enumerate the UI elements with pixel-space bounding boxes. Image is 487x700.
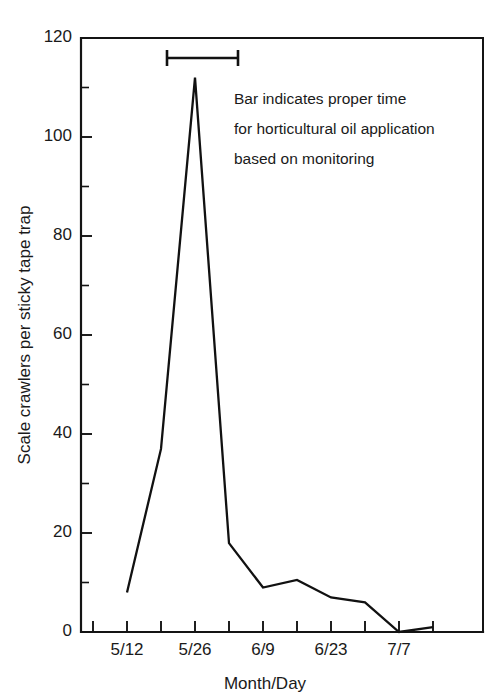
- x-axis-title: Month/Day: [224, 674, 307, 693]
- x-tick-label-5: 7/7: [387, 640, 411, 659]
- annotation-line-2: for horticultural oil application: [234, 120, 435, 137]
- y-tick-label-0: 0: [63, 621, 72, 640]
- x-tick-label-2: 5/26: [178, 640, 211, 659]
- annotation-line-1: Bar indicates proper time: [234, 90, 406, 107]
- treatment-window-bar: [167, 50, 238, 66]
- y-tick-label-100: 100: [44, 126, 72, 145]
- annotation-line-3: based on monitoring: [234, 150, 374, 167]
- x-axis-tick-labels: 5/12 5/26 6/9 6/23 7/7: [110, 640, 410, 659]
- y-tick-label-40: 40: [53, 423, 72, 442]
- y-tick-label-120: 120: [44, 27, 72, 46]
- x-tick-label-1: 5/12: [110, 640, 143, 659]
- y-axis-title: Scale crawlers per sticky tape trap: [15, 206, 34, 465]
- y-axis-major-ticks: [81, 38, 92, 632]
- y-tick-label-20: 20: [53, 522, 72, 541]
- y-tick-label-80: 80: [53, 225, 72, 244]
- y-tick-label-60: 60: [53, 324, 72, 343]
- annotation-text-block: Bar indicates proper time for horticultu…: [234, 90, 435, 167]
- x-axis-ticks: [93, 621, 433, 632]
- x-tick-label-3: 6/9: [251, 640, 275, 659]
- scale-crawler-line-chart: 0 20 40 60 80 100 120 Scale crawlers per…: [0, 0, 487, 700]
- y-axis-tick-labels: 0 20 40 60 80 100 120: [44, 27, 72, 640]
- figure-root: 0 20 40 60 80 100 120 Scale crawlers per…: [0, 0, 487, 700]
- x-tick-label-4: 6/23: [314, 640, 347, 659]
